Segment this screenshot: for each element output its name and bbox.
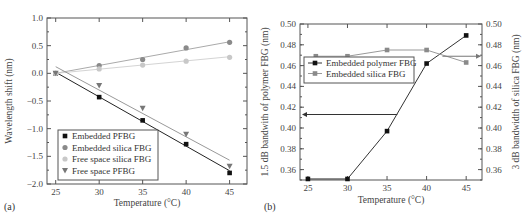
arrowhead-left-icon <box>302 112 307 117</box>
y-left-tick-label: 0.36 <box>280 165 296 175</box>
legend-label: Embedded PFBG <box>72 131 136 141</box>
data-point <box>227 171 232 176</box>
x-tick-label: 40 <box>422 183 432 193</box>
data-point <box>306 177 311 182</box>
chart-b: 25303540450.500.480.460.440.420.400.380.… <box>260 19 522 213</box>
y-left-tick-label: 0.44 <box>280 81 296 91</box>
y-right-tick-label: 0.46 <box>486 61 502 71</box>
legend-marker <box>62 145 67 150</box>
y-left-tick-label: 0.42 <box>280 102 296 112</box>
x-tick-label: 45 <box>225 187 235 197</box>
y-left-tick-label: 0.38 <box>280 144 296 154</box>
y-right-tick-label: 0.36 <box>486 165 502 175</box>
y-axis-title: Wavelength shift (nm) <box>4 58 15 143</box>
panel-label: (b) <box>264 201 276 213</box>
x-tick-label: 30 <box>343 183 353 193</box>
chart-a: 25303540451.00.50.0−0.5−1.0−1.5−2.0Tempe… <box>4 13 247 213</box>
legend-label: Embedded silica FBG <box>326 69 406 79</box>
y-right-axis-title: 3 dB bandwidth of silica FBG (nm) <box>511 34 522 169</box>
y-left-tick-label: 0.48 <box>280 40 296 50</box>
data-point <box>183 132 189 138</box>
data-point <box>424 48 429 53</box>
legend-marker <box>313 71 318 76</box>
y-left-tick-label: 0.50 <box>280 19 296 29</box>
x-axis-title: Temperature (°C) <box>114 198 181 209</box>
x-tick-label: 25 <box>303 183 313 193</box>
legend-marker <box>63 134 68 139</box>
y-right-tick-label: 0.44 <box>486 81 502 91</box>
x-axis-title: Temperature (°C) <box>358 195 425 206</box>
data-point <box>345 177 350 182</box>
y-right-tick-label: 0.48 <box>486 40 502 50</box>
legend-label: Free space silica FBG <box>72 154 152 164</box>
data-point <box>424 61 429 66</box>
series-embedded-silica-fbg <box>53 40 232 76</box>
x-tick-label: 35 <box>383 183 393 193</box>
y-tick-label: 0.5 <box>32 41 44 51</box>
data-point <box>227 40 232 45</box>
y-right-tick-label: 0.50 <box>486 19 502 29</box>
y-right-tick-label: 0.40 <box>486 123 502 133</box>
y-left-tick-label: 0.46 <box>280 61 296 71</box>
data-point <box>97 66 102 71</box>
data-point <box>385 129 390 134</box>
legend: Embedded PFBGEmbedded silica FBGFree spa… <box>58 130 158 180</box>
legend-label: Embedded silica FBG <box>72 143 152 153</box>
data-point <box>464 60 469 65</box>
y-right-tick-label: 0.42 <box>486 102 502 112</box>
data-point <box>184 59 189 64</box>
panel-label: (a) <box>4 201 15 213</box>
y-tick-label: −2.0 <box>27 179 44 189</box>
plot-frame <box>300 24 482 180</box>
x-tick-label: 40 <box>182 187 192 197</box>
data-point <box>96 83 102 89</box>
data-point <box>140 106 146 112</box>
x-tick-label: 25 <box>51 187 61 197</box>
data-point <box>97 95 102 100</box>
x-tick-label: 45 <box>462 183 472 193</box>
figure: 25303540451.00.50.0−0.5−1.0−1.5−2.0Tempe… <box>0 0 526 219</box>
data-point <box>227 164 233 170</box>
data-point <box>140 57 145 62</box>
legend-label: Embedded polymer FBG <box>326 58 417 68</box>
legend-label: Free space PFBG <box>72 166 135 176</box>
legend: Embedded polymer FBGEmbedded silica FBG <box>304 57 417 83</box>
legend-marker <box>313 61 318 66</box>
y-right-tick-label: 0.38 <box>486 144 502 154</box>
y-left-tick-label: 0.40 <box>280 123 296 133</box>
data-point <box>140 62 145 67</box>
y-tick-label: −1.0 <box>27 124 44 134</box>
y-tick-label: 0.0 <box>32 68 44 78</box>
data-point <box>140 118 145 123</box>
data-point <box>464 33 469 38</box>
data-point <box>385 48 390 53</box>
legend-marker <box>62 156 67 161</box>
y-tick-label: −0.5 <box>27 96 44 106</box>
data-point <box>227 55 232 60</box>
x-tick-label: 30 <box>95 187 105 197</box>
data-point <box>184 142 189 147</box>
x-tick-label: 35 <box>138 187 148 197</box>
data-point <box>184 45 189 50</box>
y-tick-label: 1.0 <box>32 13 44 23</box>
y-left-axis-title: 1.5 dB bandwith of polymer FBG (nm) <box>260 27 271 176</box>
arrowhead-right-icon <box>476 54 481 59</box>
y-tick-label: −1.5 <box>27 151 44 161</box>
